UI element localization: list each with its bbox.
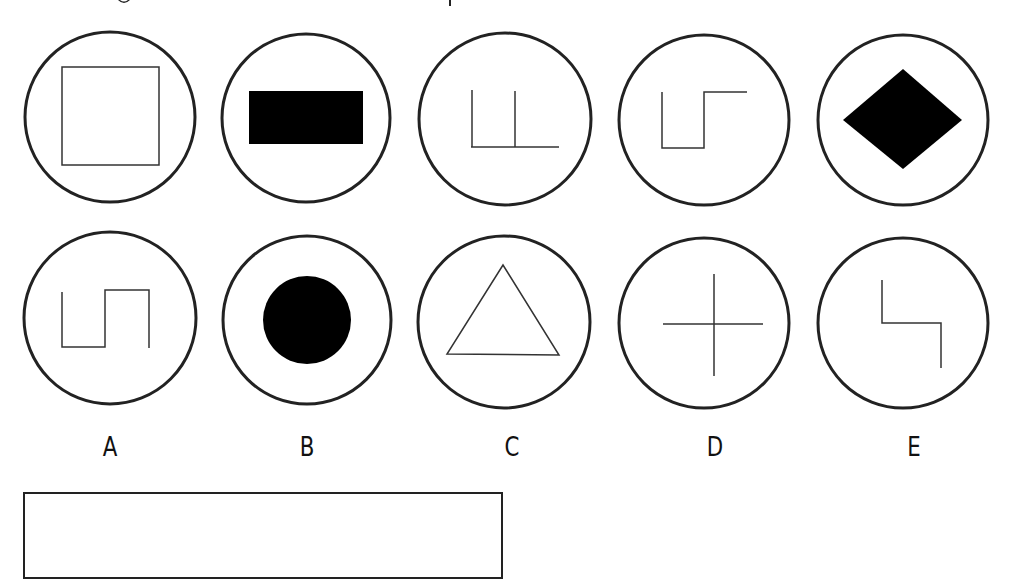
filled-diamond-icon [843, 69, 962, 169]
sequence-item-1 [25, 32, 195, 202]
option-label-c: C [496, 432, 529, 462]
sequence-item-4 [619, 35, 789, 205]
answer-box[interactable] [23, 492, 503, 579]
frame-circle-icon [418, 236, 590, 408]
step-line-icon [662, 92, 747, 148]
option-label-e: E [898, 432, 931, 462]
option-c[interactable] [418, 236, 590, 408]
sequence-item-5 [818, 35, 988, 205]
sequence-item-2 [222, 34, 390, 202]
option-label-a: A [94, 432, 127, 462]
frame-circle-icon [619, 238, 789, 408]
frame-circle-icon [419, 33, 591, 205]
option-label-d: D [699, 432, 732, 462]
double-stem-line-icon [471, 90, 559, 147]
option-a[interactable] [24, 232, 196, 404]
frame-circle-icon [24, 232, 196, 404]
clipped-heading-fragments [118, 0, 451, 6]
filled-circle-icon [263, 276, 351, 364]
option-label-b: B [291, 432, 324, 462]
option-e[interactable] [818, 238, 988, 408]
frame-circle-icon [25, 32, 195, 202]
option-b[interactable] [223, 236, 391, 404]
filled-rectangle-icon [249, 91, 363, 144]
square-outline-icon [62, 67, 159, 165]
option-d[interactable] [619, 238, 789, 408]
sequence-item-3 [419, 33, 591, 205]
